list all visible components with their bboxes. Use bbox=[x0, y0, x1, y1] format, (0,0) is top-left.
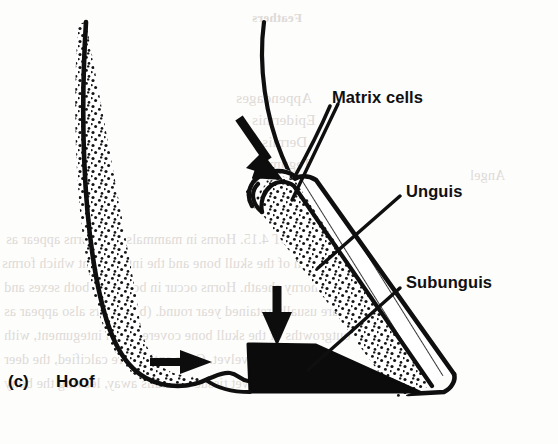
phalanx-left-structure bbox=[60, 10, 248, 410]
figure-caption-index: (c) bbox=[8, 372, 29, 392]
growth-arrow-lower bbox=[262, 286, 292, 346]
label-subunguis: Subunguis bbox=[406, 273, 492, 292]
figure-canvas: FeathersAppendagesEpidermisDermisTegumen… bbox=[0, 0, 558, 444]
label-unguis: Unguis bbox=[406, 182, 463, 201]
label-matrix-cells: Matrix cells bbox=[332, 88, 423, 107]
figure-caption-title: Hoof bbox=[56, 372, 95, 392]
phalanx-distal-notch bbox=[208, 373, 248, 381]
